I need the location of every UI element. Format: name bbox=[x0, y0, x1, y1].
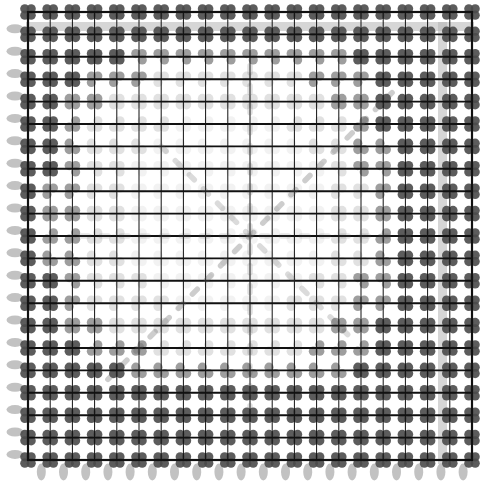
lattice-plot-area bbox=[0, 0, 494, 498]
figure-canvas bbox=[0, 0, 494, 498]
lattice-svg bbox=[0, 0, 494, 498]
